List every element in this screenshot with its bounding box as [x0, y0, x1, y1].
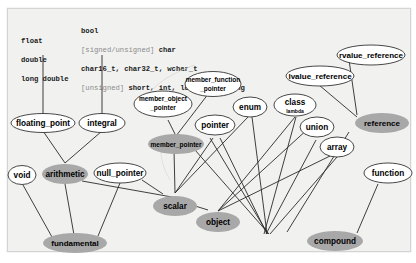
node-arithmetic: arithmetic [42, 164, 88, 184]
node-integral: integral [79, 114, 125, 133]
svg-text:enum: enum [239, 103, 261, 112]
svg-text:member_function: member_function [186, 76, 241, 83]
node-rvalue-reference: rvalue_reference [337, 45, 405, 65]
svg-text:object: object [206, 218, 230, 227]
node-enum: enum [233, 97, 267, 117]
svg-text:rvalue_reference: rvalue_reference [339, 51, 404, 60]
svg-text:floating_point: floating_point [16, 119, 70, 128]
node-member-object-pointer: member_object _pointer [134, 91, 192, 117]
svg-text:integral: integral [87, 119, 117, 128]
node-member-function-pointer: member_function _pointer [185, 72, 241, 97]
node-lvalue-reference: lvalue_reference [286, 66, 354, 86]
svg-text:member_pointer: member_pointer [151, 141, 202, 149]
svg-text:class: class [285, 98, 306, 107]
node-pointer: pointer [195, 115, 235, 135]
svg-text:pointer: pointer [201, 121, 230, 130]
svg-text:union: union [306, 123, 328, 132]
node-union: union [300, 117, 334, 137]
svg-text:reference: reference [364, 119, 401, 128]
node-reference: reference [355, 113, 409, 133]
type-graph: floating_point integral void arithmetic … [0, 0, 416, 263]
svg-text:array: array [327, 143, 347, 152]
node-compound: compound [307, 231, 363, 251]
svg-text:void: void [14, 171, 31, 180]
node-object: object [196, 212, 240, 232]
node-floating-point: floating_point [11, 114, 75, 133]
svg-text:function: function [372, 169, 404, 178]
node-fundamental: fundamental [43, 233, 107, 253]
node-member-pointer: member_pointer [148, 134, 204, 154]
svg-text:arithmetic: arithmetic [45, 170, 85, 179]
node-void: void [8, 166, 36, 185]
svg-text:_pointer: _pointer [199, 85, 226, 93]
node-scalar: scalar [153, 196, 197, 216]
node-array: array [320, 137, 354, 157]
node-class: class lambda [274, 94, 316, 116]
svg-text:lambda: lambda [286, 108, 304, 114]
svg-text:compound: compound [314, 237, 356, 246]
svg-text:scalar: scalar [163, 202, 187, 211]
svg-text:null_pointer: null_pointer [97, 169, 145, 178]
node-function: function [364, 163, 412, 183]
svg-text:member_object: member_object [139, 95, 188, 103]
node-null-pointer: null_pointer [94, 163, 146, 183]
svg-text:fundamental: fundamental [51, 239, 99, 248]
svg-text:_pointer: _pointer [149, 104, 176, 112]
svg-text:lvalue_reference: lvalue_reference [288, 72, 352, 81]
